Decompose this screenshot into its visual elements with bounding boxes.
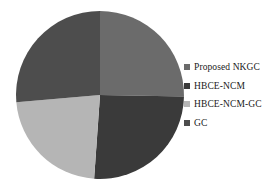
pie-slice[interactable] <box>94 95 184 179</box>
legend-item-hbce-ncm-gc[interactable]: HBCE-NCM-GC <box>184 95 280 114</box>
legend-item-gc[interactable]: GC <box>184 114 280 133</box>
pie-plot-area <box>8 5 192 186</box>
pie-slices-group <box>16 11 184 179</box>
legend-item-label: GC <box>194 118 207 128</box>
pie-slice[interactable] <box>16 95 100 179</box>
legend-item-label: HBCE-NCM-GC <box>194 99 262 109</box>
legend-item-label: Proposed NKGC <box>194 62 260 72</box>
legend-item-hbce-ncm[interactable]: HBCE-NCM <box>184 77 280 96</box>
pie-slice[interactable] <box>100 11 184 96</box>
pie-svg <box>8 5 192 186</box>
square-swatch-icon <box>184 64 190 70</box>
square-swatch-icon <box>184 120 190 126</box>
square-swatch-icon <box>184 101 190 107</box>
legend-item-proposed-nkgc[interactable]: Proposed NKGC <box>184 58 280 77</box>
square-swatch-icon <box>184 83 190 89</box>
legend-item-label: HBCE-NCM <box>194 81 245 91</box>
pie-slice[interactable] <box>16 11 100 102</box>
chart-legend: Proposed NKGC HBCE-NCM HBCE-NCM-GC GC <box>184 58 280 132</box>
pie-chart-figure: Proposed NKGC HBCE-NCM HBCE-NCM-GC GC <box>0 0 280 186</box>
